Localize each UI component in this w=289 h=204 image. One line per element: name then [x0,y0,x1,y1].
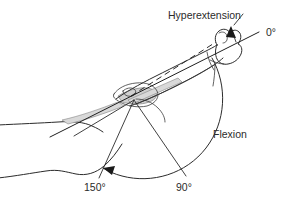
hyperextension-arrowhead [226,26,236,38]
zero-degree-axis-line [50,32,259,137]
one-fifty-degree-label: 150° [84,181,106,193]
wrist-lower-line [213,64,215,86]
upper-arm-superior-contour [0,122,103,132]
upper-arm-inferior-contour [0,144,122,178]
hyperextension-reference-dashed-line [131,42,216,96]
thumb-knuckle-detail [219,32,227,43]
hyperextension-label: Hyperextension [168,9,241,21]
flexion-arc [103,58,223,179]
flexion-label: Flexion [213,128,247,140]
elbow-range-of-motion-diagram: Hyperextension 0° Flexion 150° 90° [0,0,289,204]
ninety-degree-ray [134,100,186,176]
humerus-shaft-shading [62,102,124,124]
zero-degree-label: 0° [266,26,276,38]
ninety-degree-label: 90° [176,181,192,193]
